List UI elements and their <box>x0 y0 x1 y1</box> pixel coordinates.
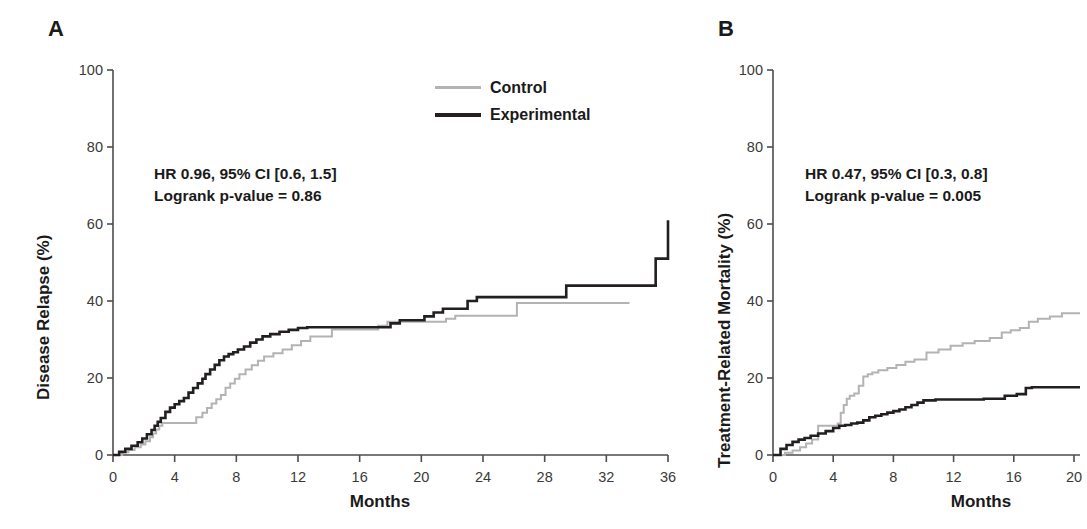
legend-entry-control: Control <box>435 74 590 101</box>
svg-text:4: 4 <box>829 469 837 485</box>
svg-text:100: 100 <box>739 62 763 78</box>
svg-text:80: 80 <box>747 139 763 155</box>
panel-a-hazard-ratio: HR 0.96, 95% CI [0.6, 1.5] <box>154 163 337 185</box>
svg-text:20: 20 <box>413 469 429 485</box>
legend-swatch-control-icon <box>435 86 481 89</box>
panel-b-statistics: HR 0.47, 95% CI [0.3, 0.8] Logrank p-val… <box>805 163 988 207</box>
svg-text:80: 80 <box>87 139 103 155</box>
svg-text:40: 40 <box>747 293 763 309</box>
svg-text:0: 0 <box>109 469 117 485</box>
svg-text:8: 8 <box>232 469 240 485</box>
svg-text:24: 24 <box>475 469 491 485</box>
svg-text:8: 8 <box>889 469 897 485</box>
legend-label-experimental: Experimental <box>490 107 590 123</box>
svg-text:60: 60 <box>747 216 763 232</box>
panel-b-logrank-pvalue: Logrank p-value = 0.005 <box>805 185 988 207</box>
svg-text:28: 28 <box>537 469 553 485</box>
panel-b-hazard-ratio: HR 0.47, 95% CI [0.3, 0.8] <box>805 163 988 185</box>
svg-text:20: 20 <box>747 370 763 386</box>
svg-text:12: 12 <box>290 469 306 485</box>
panel-b-y-axis-title: Treatment-Related Mortality (%) <box>715 213 735 468</box>
legend-entry-experimental: Experimental <box>435 101 590 128</box>
panel-a: A 02040608010004812162024283236 HR 0.96,… <box>0 0 690 529</box>
panel-b: B 020406080100048121620 HR 0.47, 95% CI … <box>690 0 1087 529</box>
panel-a-statistics: HR 0.96, 95% CI [0.6, 1.5] Logrank p-val… <box>154 163 337 207</box>
svg-text:60: 60 <box>87 216 103 232</box>
svg-text:16: 16 <box>352 469 368 485</box>
panel-a-y-axis-title: Disease Relapse (%) <box>34 235 54 400</box>
svg-text:0: 0 <box>95 447 103 463</box>
legend-swatch-experimental-icon <box>435 113 481 117</box>
svg-text:20: 20 <box>87 370 103 386</box>
panel-b-x-axis-title: Months <box>690 492 1087 512</box>
panel-b-plot: 020406080100048121620 <box>690 0 1087 529</box>
panel-a-x-axis-title: Months <box>0 492 690 512</box>
svg-text:4: 4 <box>171 469 179 485</box>
legend-label-control: Control <box>490 80 547 96</box>
svg-text:0: 0 <box>769 469 777 485</box>
svg-text:40: 40 <box>87 293 103 309</box>
legend: Control Experimental <box>435 74 590 128</box>
svg-text:20: 20 <box>1066 469 1082 485</box>
survival-figure: A 02040608010004812162024283236 HR 0.96,… <box>0 0 1087 529</box>
svg-text:16: 16 <box>1006 469 1022 485</box>
svg-text:0: 0 <box>755 447 763 463</box>
svg-text:100: 100 <box>79 62 103 78</box>
svg-text:36: 36 <box>660 469 676 485</box>
svg-text:12: 12 <box>946 469 962 485</box>
panel-a-logrank-pvalue: Logrank p-value = 0.86 <box>154 185 337 207</box>
svg-text:32: 32 <box>598 469 614 485</box>
